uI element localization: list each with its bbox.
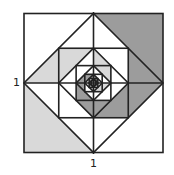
side-label-left: 1 xyxy=(13,77,20,88)
nested-squares-diagram xyxy=(0,0,174,175)
side-label-bottom: 1 xyxy=(90,158,97,169)
